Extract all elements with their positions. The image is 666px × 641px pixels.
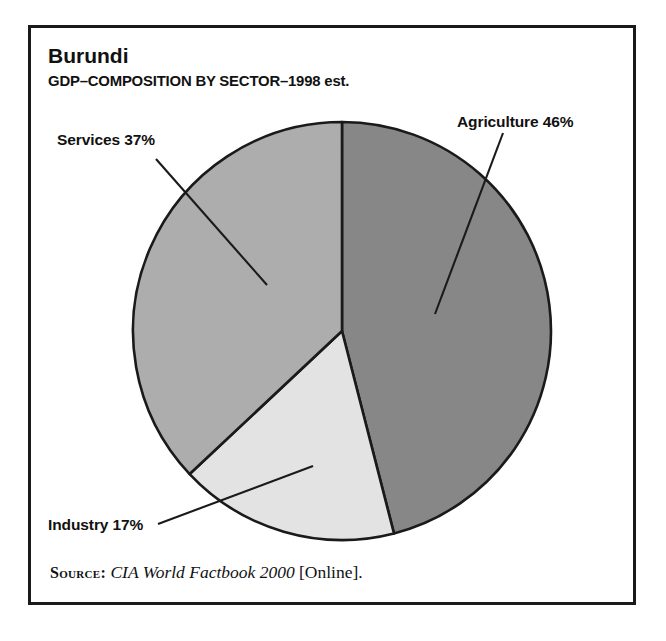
- pie-label-services: Services 37%: [57, 131, 155, 149]
- chart-page: Burundi GDP–COMPOSITION BY SECTOR–1998 e…: [0, 0, 666, 641]
- source-title-label: CIA World Factbook 2000: [110, 562, 294, 582]
- pie-label-agriculture: Agriculture 46%: [457, 113, 574, 131]
- pie-slice-group: [133, 122, 551, 540]
- source-prefix-label: Source:: [50, 564, 106, 581]
- source-suffix-label: [Online].: [299, 562, 363, 582]
- pie-label-industry: Industry 17%: [48, 516, 143, 534]
- pie-chart: [0, 0, 666, 641]
- source-citation: Source: CIA World Factbook 2000 [Online]…: [50, 562, 363, 583]
